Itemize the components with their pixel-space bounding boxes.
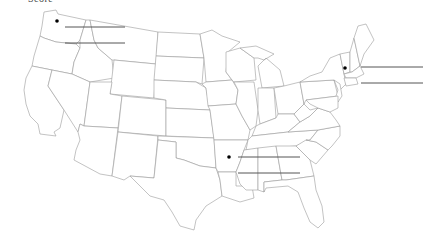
state-colorado (118, 96, 166, 136)
marker-dot-northeast (343, 66, 347, 70)
marker-dot-south (227, 155, 231, 159)
state-indiana (258, 88, 276, 124)
marker-dot-northwest (55, 19, 59, 23)
state-south-dakota (154, 56, 204, 84)
state-wyoming (110, 60, 156, 98)
state-connecticut (344, 78, 358, 86)
state-kansas (166, 108, 214, 138)
state-new-mexico (112, 132, 158, 180)
state-florida (264, 176, 324, 228)
state-arizona (74, 124, 118, 176)
state-iowa (202, 80, 238, 106)
state-north-dakota (156, 32, 204, 58)
us-map (0, 0, 437, 240)
